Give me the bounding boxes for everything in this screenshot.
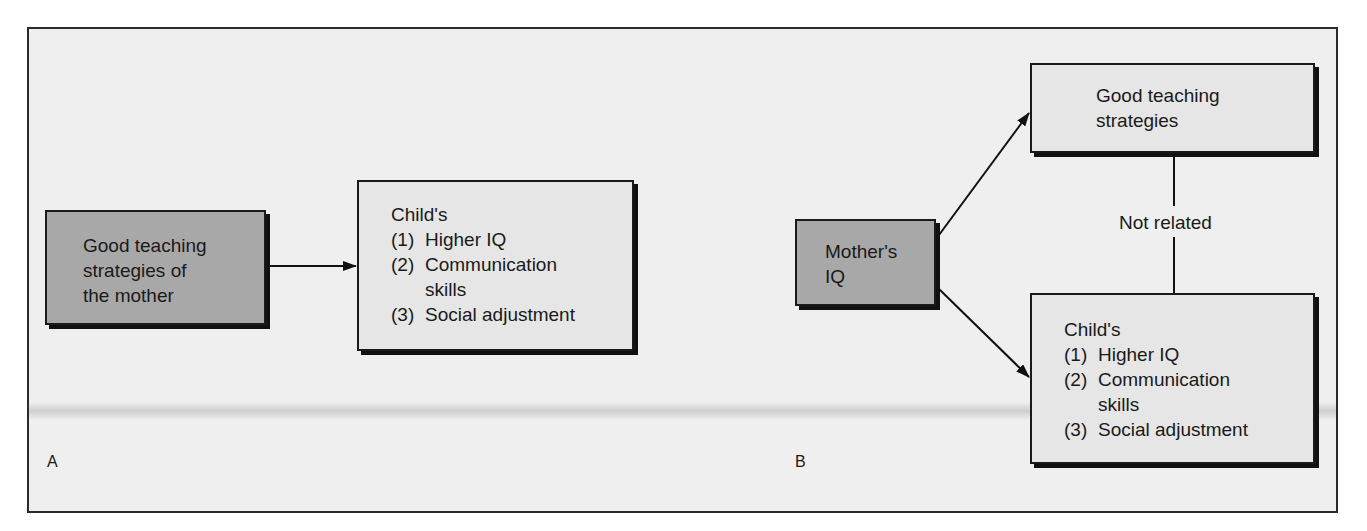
arrow-b-down (939, 289, 1029, 377)
outcome-item: (3)Social adjustment (1064, 417, 1313, 442)
outcome-item-continuation: skills (391, 277, 632, 302)
top-line: strategies (1096, 108, 1313, 133)
effect-heading: Child's (391, 202, 632, 227)
outcome-item: (1)Higher IQ (391, 227, 632, 252)
top-box-teaching-strategies: Good teaching strategies (1030, 63, 1315, 153)
panel-label-b: B (795, 453, 806, 471)
outcome-item: (3)Social adjustment (391, 302, 632, 327)
cause-box-teaching-strategies: Good teaching strategies of the mother (45, 210, 266, 325)
effect-heading: Child's (1064, 317, 1313, 342)
not-related-label: Not related (1115, 210, 1216, 236)
cause-line: Good teaching (83, 233, 264, 258)
outcome-item: (2)Communication (391, 252, 632, 277)
source-line: Mother's (825, 239, 934, 264)
effect-box-child-outcomes-a: Child's (1)Higher IQ (2)Communication sk… (357, 180, 634, 351)
arrow-b-up (939, 113, 1029, 235)
cause-line: the mother (83, 283, 264, 308)
source-box-mothers-iq: Mother's IQ (795, 219, 936, 306)
panel-label-a: A (47, 453, 58, 471)
outcome-item: (1)Higher IQ (1064, 342, 1313, 367)
top-line: Good teaching (1096, 83, 1313, 108)
cause-line: strategies of (83, 258, 264, 283)
outcome-item-continuation: skills (1064, 392, 1313, 417)
source-line: IQ (825, 264, 934, 289)
effect-box-child-outcomes-b: Child's (1)Higher IQ (2)Communication sk… (1030, 293, 1315, 464)
outcome-item: (2)Communication (1064, 367, 1313, 392)
